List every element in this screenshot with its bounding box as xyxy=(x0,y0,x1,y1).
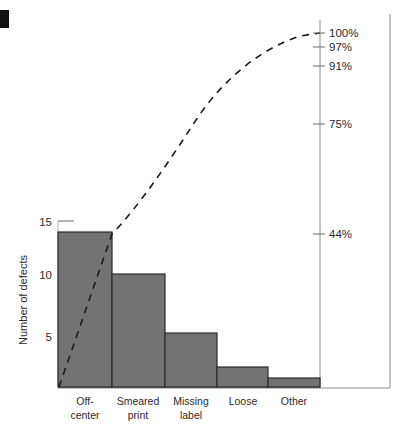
cat-label-smeared-print-line1: Smeared xyxy=(117,395,160,407)
bar-loose xyxy=(217,367,268,387)
cat-label-other: Other xyxy=(281,395,308,407)
bar-other xyxy=(268,378,320,387)
pareto-chart: 15 10 5 Number of defects 100% 97% 91% 7… xyxy=(0,0,411,442)
bar-smeared-print xyxy=(112,274,165,387)
cat-label-loose: Loose xyxy=(229,395,258,407)
y2-tick-label-91: 91% xyxy=(329,60,352,72)
y-tick-label-10: 10 xyxy=(39,269,52,281)
y-tick-label-5: 5 xyxy=(46,331,52,343)
y2-tick-label-75: 75% xyxy=(329,118,352,130)
category-labels: Off- center Smeared print Missing label … xyxy=(70,395,307,421)
bar-series xyxy=(58,232,320,387)
right-axis-ticks xyxy=(313,33,325,234)
y2-tick-label-44: 44% xyxy=(329,228,352,240)
cat-label-missing-label-line1: Missing xyxy=(173,395,209,407)
cat-label-smeared-print-line2: print xyxy=(128,409,149,421)
y2-tick-label-97: 97% xyxy=(329,41,352,53)
bar-missing-label xyxy=(165,333,217,387)
y2-tick-label-100: 100% xyxy=(329,27,358,39)
cat-label-off-center-line2: center xyxy=(70,409,100,421)
pareto-chart-figure: 15 10 5 Number of defects 100% 97% 91% 7… xyxy=(0,0,411,442)
y-tick-label-15: 15 xyxy=(39,216,52,228)
cat-label-off-center-line1: Off- xyxy=(76,395,94,407)
y-axis-title: Number of defects xyxy=(17,255,29,345)
cat-label-missing-label-line2: label xyxy=(180,409,202,421)
